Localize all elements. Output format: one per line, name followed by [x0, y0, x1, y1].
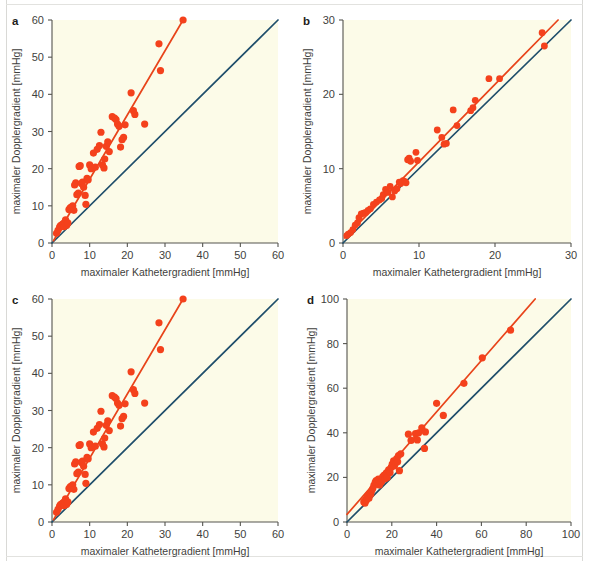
- data-point: [100, 164, 107, 171]
- data-point: [106, 427, 113, 434]
- x-tick-label: 30: [565, 249, 577, 261]
- data-point: [405, 431, 412, 438]
- data-point: [121, 400, 128, 407]
- data-point: [396, 467, 403, 474]
- data-point: [157, 346, 164, 353]
- y-tick-label: 10: [32, 479, 44, 491]
- panel-svg-b: b01020300102030maximaler Kathetergradien…: [295, 0, 589, 285]
- data-point: [101, 155, 108, 162]
- y-axis-title-b: maximaler Dopplergradient [mmHg]: [301, 49, 313, 215]
- data-point: [403, 179, 410, 186]
- y-tick-label: 0: [38, 237, 44, 249]
- data-point: [433, 400, 440, 407]
- data-point: [70, 207, 77, 214]
- y-tick-label: 40: [32, 88, 44, 100]
- data-point: [64, 219, 71, 226]
- panel-grid: a01020304050600102030405060maximaler Kat…: [0, 0, 589, 561]
- data-point: [413, 149, 420, 156]
- data-point: [64, 498, 71, 505]
- panel-svg-c: c01020304050600102030405060maximaler Kat…: [0, 285, 295, 561]
- x-tick-label: 30: [159, 249, 171, 261]
- data-point: [421, 445, 428, 452]
- data-point: [120, 413, 127, 420]
- y-tick-label: 50: [32, 51, 44, 63]
- x-tick-label: 60: [272, 249, 284, 261]
- data-point: [157, 67, 164, 74]
- data-point: [443, 140, 450, 147]
- data-point: [115, 123, 122, 130]
- data-point: [454, 122, 461, 129]
- data-point: [470, 104, 477, 111]
- y-tick-label: 20: [327, 471, 339, 483]
- data-point: [96, 142, 103, 149]
- y-tick-label: 30: [32, 126, 44, 138]
- x-tick-label: 60: [272, 528, 284, 540]
- data-point: [106, 148, 113, 155]
- data-point: [128, 368, 135, 375]
- data-point: [104, 417, 111, 424]
- data-point: [155, 319, 162, 326]
- data-point: [389, 194, 396, 201]
- data-point: [75, 190, 82, 197]
- data-point: [394, 458, 401, 465]
- data-point: [121, 121, 128, 128]
- y-tick-label: 40: [32, 367, 44, 379]
- data-point: [131, 390, 138, 397]
- x-tick-label: 0: [340, 249, 346, 261]
- x-tick-label: 20: [386, 528, 398, 540]
- data-point: [155, 40, 162, 47]
- x-axis-title-b: maximaler Kathetergradient [mmHg]: [373, 266, 542, 278]
- data-point: [179, 16, 186, 23]
- data-point: [101, 434, 108, 441]
- x-tick-label: 0: [344, 528, 350, 540]
- data-point: [80, 184, 87, 191]
- x-tick-label: 20: [121, 528, 133, 540]
- data-point: [128, 89, 135, 96]
- y-tick-label: 60: [32, 14, 44, 26]
- x-tick-label: 10: [84, 528, 96, 540]
- data-point: [486, 75, 493, 82]
- data-point: [96, 421, 103, 428]
- data-point: [440, 412, 447, 419]
- y-tick-label: 10: [32, 200, 44, 212]
- data-point: [141, 399, 148, 406]
- panel-d: d020406080100020406080100maximaler Kathe…: [295, 285, 589, 561]
- data-point: [85, 455, 92, 462]
- y-tick-label: 100: [321, 293, 339, 305]
- data-point: [104, 138, 111, 145]
- panel-b: b01020300102030maximaler Kathetergradien…: [295, 0, 589, 285]
- y-tick-label: 10: [323, 163, 335, 175]
- x-tick-label: 40: [197, 249, 209, 261]
- x-tick-label: 100: [562, 528, 580, 540]
- data-point: [472, 97, 479, 104]
- panel-svg-d: d020406080100020406080100maximaler Kathe…: [295, 285, 589, 561]
- data-point: [397, 450, 404, 457]
- x-tick-label: 10: [84, 249, 96, 261]
- panel-letter-c: c: [12, 294, 19, 306]
- panel-svg-a: a01020304050600102030405060maximaler Kat…: [0, 0, 295, 285]
- data-point: [82, 471, 89, 478]
- data-point: [117, 423, 124, 430]
- data-point: [131, 111, 138, 118]
- y-axis-title-c: maximaler Dopplergradient [mmHg]: [10, 328, 22, 494]
- y-axis-title-a: maximaler Dopplergradient [mmHg]: [10, 49, 22, 215]
- data-point: [82, 201, 89, 208]
- x-axis-title-c: maximaler Kathetergradient [mmHg]: [81, 545, 250, 557]
- x-tick-label: 10: [413, 249, 425, 261]
- data-point: [539, 29, 546, 36]
- y-tick-label: 30: [323, 14, 335, 26]
- data-point: [507, 327, 514, 334]
- data-point: [82, 480, 89, 487]
- data-point: [117, 144, 124, 151]
- data-point: [141, 120, 148, 127]
- data-point: [77, 441, 84, 448]
- x-tick-label: 20: [489, 249, 501, 261]
- data-point: [422, 428, 429, 435]
- x-tick-label: 30: [159, 528, 171, 540]
- x-axis-title-d: maximaler Kathetergradient [mmHg]: [375, 545, 544, 557]
- data-point: [70, 486, 77, 493]
- x-tick-label: 50: [234, 249, 246, 261]
- x-axis-title-a: maximaler Kathetergradient [mmHg]: [81, 266, 250, 278]
- data-point: [100, 443, 107, 450]
- y-tick-label: 50: [32, 330, 44, 342]
